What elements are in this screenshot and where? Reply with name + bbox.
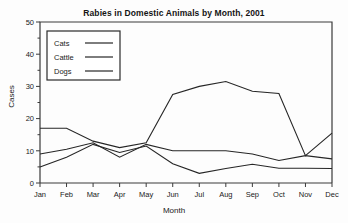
svg-text:Nov: Nov [299, 190, 313, 199]
svg-text:0: 0 [30, 179, 34, 188]
svg-text:Oct: Oct [273, 190, 286, 199]
legend-label-cats: Cats [54, 39, 70, 48]
svg-text:Mar: Mar [87, 190, 100, 199]
svg-text:Jun: Jun [167, 190, 179, 199]
legend-label-dogs: Dogs [54, 67, 72, 76]
y-axis-ticks: 01020304050 [26, 18, 40, 188]
svg-text:50: 50 [26, 18, 34, 27]
svg-text:10: 10 [26, 147, 34, 156]
svg-text:Sep: Sep [246, 190, 259, 199]
chart-legend: CatsCattleDogs [47, 31, 120, 80]
plot-area: 01020304050 JanFebMarAprMayJunJulAugSepO… [0, 0, 348, 223]
series-line-cats [40, 143, 332, 161]
rabies-line-chart: Rabies in Domestic Animals by Month, 200… [0, 0, 348, 223]
svg-text:Apr: Apr [114, 190, 126, 199]
x-axis-ticks: JanFebMarAprMayJunJulAugSepOctNovDec [34, 183, 339, 199]
svg-text:Feb: Feb [60, 190, 73, 199]
legend-label-cattle: Cattle [54, 53, 74, 62]
svg-text:20: 20 [26, 114, 34, 123]
svg-text:Jan: Jan [34, 190, 46, 199]
svg-text:30: 30 [26, 82, 34, 91]
svg-text:Jul: Jul [194, 190, 204, 199]
svg-text:Dec: Dec [325, 190, 339, 199]
svg-text:May: May [139, 190, 153, 199]
svg-text:40: 40 [26, 50, 34, 59]
series-lines [40, 82, 332, 174]
svg-text:Aug: Aug [219, 190, 232, 199]
